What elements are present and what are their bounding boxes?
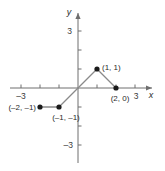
y-axis-label: y (66, 7, 72, 17)
x-tick-label-neg3: –3 (16, 91, 26, 101)
x-tick-label-3: 3 (134, 91, 139, 101)
point-label-neg2-neg1: (–2, –1) (8, 103, 36, 112)
point-label-1-1: (1, 1) (102, 63, 121, 72)
data-point-neg2-neg1 (37, 104, 42, 109)
y-axis-arrow-icon (75, 13, 80, 19)
plot-area: y x 3 –3 –3 3 (1, 1) (2, 0) (–1, –1) (–2… (0, 0, 165, 171)
y-tick-label-neg3: –3 (64, 140, 74, 150)
data-point-1-1 (94, 66, 99, 71)
coordinate-plane-graph: y x 3 –3 –3 3 (1, 1) (2, 0) (–1, –1) (–2… (0, 0, 165, 171)
y-tick-label-3: 3 (67, 26, 72, 36)
point-label-neg1-neg1: (–1, –1) (52, 113, 80, 122)
x-axis-label: x (148, 90, 154, 100)
point-label-2-0: (2, 0) (111, 94, 130, 103)
data-point-neg1-neg1 (56, 104, 61, 109)
data-point-2-0 (113, 85, 118, 90)
